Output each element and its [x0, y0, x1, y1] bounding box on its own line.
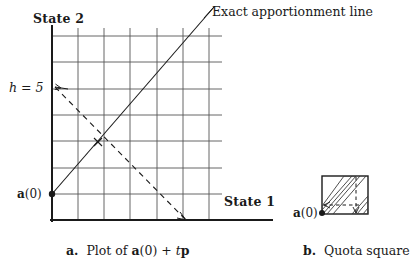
caption-panel-b: b. Quota square: [303, 243, 410, 258]
panel-a-grid: [52, 28, 222, 220]
h-value-label: h = 5: [9, 80, 43, 95]
axis-label-state-2: State 2: [33, 11, 84, 26]
panel-a-axes: [51, 26, 272, 221]
point-a0-panel-b: [319, 210, 325, 216]
point-a0-panel-a: [49, 191, 55, 197]
point-label-a0-panel-b: a(0): [293, 206, 318, 220]
point-label-a0-panel-a: a(0): [17, 187, 42, 201]
axis-label-state-1: State 1: [224, 194, 275, 209]
h-constraint-dashed-line: [55, 87, 186, 220]
exact-apportionment-line-label: Exact apportionment line: [212, 4, 373, 19]
panel-b-quota-square: [319, 176, 368, 216]
intersection-cross-marker: [94, 138, 102, 146]
caption-panel-a: a. Plot of a(0) + tp: [66, 243, 190, 258]
